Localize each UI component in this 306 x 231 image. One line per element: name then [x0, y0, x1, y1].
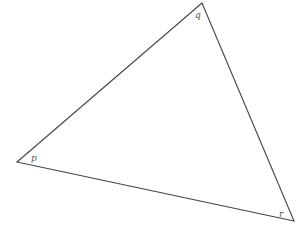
diagram-canvas: q p r: [0, 0, 306, 231]
edge-pq: [17, 3, 202, 162]
vertex-label-r: r: [279, 209, 284, 219]
vertex-label-p: p: [31, 153, 37, 163]
edge-qr: [202, 3, 294, 221]
triangle-figure: q p r: [0, 0, 306, 231]
edge-rp: [17, 162, 294, 221]
vertex-label-q: q: [195, 10, 201, 20]
